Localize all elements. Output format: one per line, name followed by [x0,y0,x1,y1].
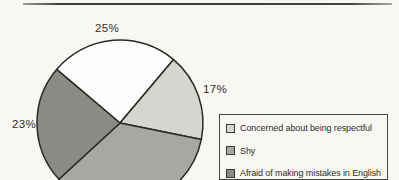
legend-box: Concerned about being respectful Shy Afr… [219,114,388,180]
legend-swatch-medium-icon [226,146,235,155]
legend-item-afraid: Afraid of making mistakes in English [226,167,387,179]
legend-item-label: Afraid of making mistakes in English [240,168,381,178]
scanned-pie-chart-figure: 25% 17% 23% Concerned about being respec… [0,0,399,180]
legend-item-shy: Shy [226,145,387,157]
pie-slice-label-25: 25% [95,22,119,34]
legend-swatch-light-icon [226,124,235,133]
pie-slice-label-17: 17% [203,83,227,95]
legend-item-concerned: Concerned about being respectful [226,122,387,134]
pie-slice-label-23: 23% [12,118,36,130]
legend-swatch-dark-icon [226,169,235,178]
legend-item-label: Concerned about being respectful [240,123,372,133]
legend-item-label: Shy [240,146,255,156]
